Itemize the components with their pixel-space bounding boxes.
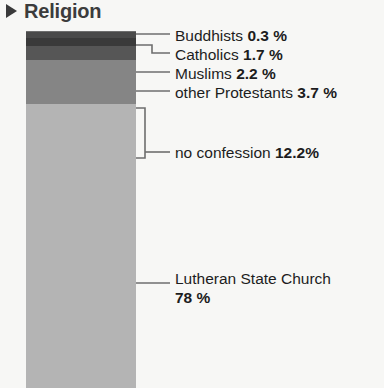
stacked-bar	[26, 31, 136, 388]
label-buddhists-value: 0.3 %	[247, 27, 287, 44]
label-muslims: Muslims 2.2 %	[175, 66, 276, 83]
label-no-confession-value: 12.2%	[275, 144, 319, 161]
chart-title-row: Religion	[6, 1, 101, 21]
label-buddhists-name: Buddhists	[175, 27, 243, 44]
label-other-protestants-value: 3.7 %	[297, 84, 337, 101]
label-muslims-name: Muslims	[175, 65, 232, 82]
label-lutheran-name: Lutheran State Church	[175, 270, 331, 287]
label-catholics: Catholics 1.7 %	[175, 47, 283, 64]
leader-line-catholics	[136, 45, 170, 53]
label-no-confession-name: no confession	[175, 144, 271, 161]
triangle-right-icon	[6, 4, 17, 18]
label-buddhists: Buddhists 0.3 %	[175, 28, 287, 45]
page-title: Religion	[24, 1, 101, 21]
bar-segment-other-protestants	[26, 46, 136, 59]
bar-segment-no-confession	[26, 60, 136, 104]
label-muslims-value: 2.2 %	[236, 65, 276, 82]
label-other-protestants-name: other Protestants	[175, 84, 293, 101]
bar-segment-muslims	[26, 38, 136, 46]
bar-segment-lutheran	[26, 104, 136, 388]
label-catholics-name: Catholics	[175, 46, 239, 63]
label-lutheran-value: 78 %	[175, 290, 331, 307]
label-other-protestants: other Protestants 3.7 %	[175, 85, 337, 102]
label-no-confession: no confession 12.2%	[175, 145, 319, 162]
leader-line-no-confession-bracket	[136, 108, 145, 158]
label-catholics-value: 1.7 %	[243, 46, 283, 63]
label-lutheran: Lutheran State Church 78 %	[175, 271, 331, 306]
religion-chart: Religion Buddhists 0.3 %	[0, 0, 384, 388]
